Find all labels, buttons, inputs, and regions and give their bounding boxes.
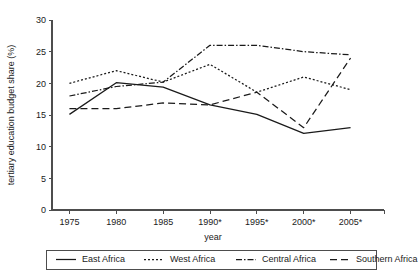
x-axis-group: 1975198019851990*1995*2000*2005* year xyxy=(52,210,384,242)
legend-items: East AfricaWest AfricaCentral AfricaSout… xyxy=(56,254,418,264)
x-tick-label: 1980 xyxy=(106,217,126,227)
legend-label-east-africa: East Africa xyxy=(82,254,125,264)
line-chart: 051015202530 tertiary education budget s… xyxy=(0,0,419,274)
series-line-central-africa xyxy=(69,45,350,96)
y-axis-ticks: 051015202530 xyxy=(36,15,52,215)
x-axis-ticks: 1975198019851990*1995*2000*2005* xyxy=(59,210,384,227)
legend-label-southern-africa: Southern Africa xyxy=(356,254,418,264)
x-tick-label: 1985 xyxy=(153,217,173,227)
y-tick-label: 30 xyxy=(36,15,46,25)
y-axis-group: 051015202530 tertiary education budget s… xyxy=(6,15,52,215)
chart-container: 051015202530 tertiary education budget s… xyxy=(0,0,419,274)
x-tick-label: 1990* xyxy=(198,217,222,227)
x-tick-label: 2000* xyxy=(292,217,316,227)
y-tick-label: 5 xyxy=(41,174,46,184)
y-tick-label: 10 xyxy=(36,142,46,152)
y-tick-label: 20 xyxy=(36,79,46,89)
chart-legend: East AfricaWest AfricaCentral AfricaSout… xyxy=(46,250,418,269)
x-tick-label: 1975 xyxy=(59,217,79,227)
data-series-group xyxy=(69,45,350,133)
y-tick-label: 25 xyxy=(36,47,46,57)
legend-label-west-africa: West Africa xyxy=(170,254,215,264)
x-tick-label: 1995* xyxy=(245,217,269,227)
y-tick-label: 0 xyxy=(41,205,46,215)
series-line-southern-africa xyxy=(69,58,350,128)
x-axis-title: year xyxy=(204,232,222,242)
legend-label-central-africa: Central Africa xyxy=(262,254,316,264)
y-axis-title: tertiary education budget share (%) xyxy=(6,45,16,186)
y-tick-label: 15 xyxy=(36,110,46,120)
x-tick-label: 2005* xyxy=(339,217,363,227)
series-line-east-africa xyxy=(69,83,350,134)
